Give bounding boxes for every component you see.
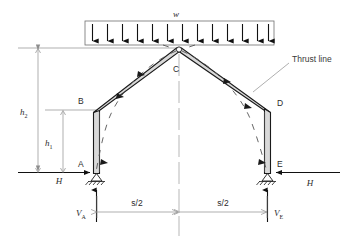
distributed-load-group: w — [85, 9, 274, 45]
dimension-h2-label: h2 — [20, 107, 28, 119]
support-right-pin-icon — [262, 174, 273, 182]
dimension-span-right-label: s/2 — [217, 198, 229, 208]
dimension-span-group: s/2 s/2 — [97, 196, 267, 218]
dimension-span-left-label: s/2 — [131, 198, 143, 208]
support-left-pin-icon — [91, 174, 102, 182]
node-label-d: D — [277, 98, 283, 108]
reaction-v-left-label: VA — [76, 208, 87, 220]
reaction-h-left-group: H — [18, 173, 90, 187]
dimension-h1-group: h1 — [45, 111, 66, 173]
thrust-line-annotation: Thrust line — [253, 54, 332, 92]
left-column-member — [94, 109, 100, 174]
reaction-v-left-group: VA — [76, 190, 97, 222]
load-label: w — [173, 9, 179, 19]
reaction-h-left-label: H — [55, 176, 63, 186]
thrust-line-right — [182, 51, 267, 172]
reaction-v-right-label: VE — [274, 208, 284, 220]
reaction-v-right-group: VE — [268, 190, 284, 222]
load-box — [85, 21, 274, 45]
dimension-h1-label: h1 — [45, 138, 53, 150]
node-label-c: C — [173, 64, 179, 74]
thrust-direction-markers — [100, 71, 266, 165]
support-right-group — [257, 174, 277, 186]
apex-hinge-group — [176, 47, 181, 52]
right-column-member — [265, 109, 271, 174]
node-label-e: E — [277, 159, 283, 169]
node-label-a: A — [78, 159, 84, 169]
frame-members — [94, 48, 271, 174]
node-label-b: B — [78, 96, 84, 106]
thrust-line-group — [96, 45, 267, 172]
thrust-line-left — [96, 51, 176, 172]
dimension-h2-group: h2 — [20, 49, 41, 173]
left-rafter-member — [94, 48, 180, 113]
reaction-h-right-group: H — [276, 173, 340, 189]
reaction-h-right-label: H — [306, 178, 314, 188]
thrust-line-leader — [253, 63, 289, 92]
structural-frame-diagram: w — [0, 0, 354, 238]
thrust-line-label: Thrust line — [292, 54, 332, 64]
support-left-group — [86, 174, 106, 186]
apex-hinge-icon — [176, 47, 181, 52]
